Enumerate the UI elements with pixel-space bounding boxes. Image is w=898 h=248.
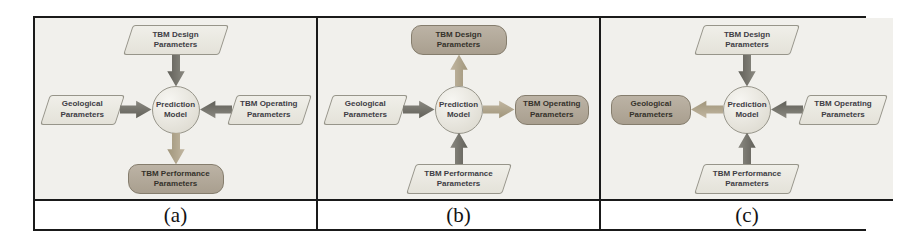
node-tbm-performance-parameters: TBM Performance Parameters [699, 164, 795, 194]
arrow-left-icon [403, 100, 435, 119]
node-geological-parameters: Geological Parameters [45, 95, 120, 125]
arrow-left-icon [120, 100, 152, 119]
node-label: TBM Performance Parameters [704, 169, 790, 190]
prediction-model-circle: Prediction Model [723, 86, 771, 134]
middle-row: Geological Parameters Prediction Model T… [328, 86, 589, 134]
arrow-bottom-icon [449, 133, 468, 165]
arrow-bottom-icon [738, 133, 757, 165]
caption-band-a: (a) [35, 199, 316, 229]
prediction-model-circle: Prediction Model [435, 86, 483, 134]
prediction-model-circle: Prediction Model [152, 86, 200, 134]
arrow-slot [443, 138, 475, 160]
node-label: TBM Operating Parameters [808, 99, 878, 120]
arrow-top-icon [449, 54, 468, 86]
diagram-c: TBM Design Parameters Geological Paramet… [601, 18, 893, 199]
arrow-slot [403, 100, 435, 119]
node-label: Geological Parameters [333, 99, 398, 120]
node-tbm-design-parameters: TBM Design Parameters [699, 25, 795, 55]
node-tbm-performance-parameters: TBM Performance Parameters [411, 164, 507, 194]
node-label: TBM Operating Parameters [520, 99, 585, 120]
node-geological-parameters: Geological Parameters [328, 95, 403, 125]
arrow-left-icon [691, 100, 723, 119]
diagram-b: TBM Design Parameters Geological Paramet… [318, 18, 599, 199]
node-tbm-operating-parameters: TBM Operating Parameters [515, 95, 590, 125]
node-tbm-performance-parameters: TBM Performance Parameters [128, 164, 224, 194]
arrow-top-icon [738, 54, 757, 86]
node-label: TBM Performance Parameters [416, 169, 502, 190]
arrow-slot [200, 100, 232, 119]
arrow-slot [160, 59, 192, 81]
arrow-right-icon [483, 100, 515, 119]
arrow-slot [731, 138, 763, 160]
node-tbm-design-parameters: TBM Design Parameters [411, 25, 507, 55]
arrow-bottom-icon [166, 133, 185, 165]
panel-a: TBM Design Parameters Geological Paramet… [35, 18, 316, 229]
node-tbm-operating-parameters: TBM Operating Parameters [232, 95, 307, 125]
caption-band-c: (c) [601, 199, 893, 229]
middle-row: Geological Parameters Prediction Model T… [45, 86, 306, 134]
arrow-top-icon [166, 54, 185, 86]
panel-b: TBM Design Parameters Geological Paramet… [316, 18, 599, 229]
arrow-slot [691, 100, 723, 119]
node-label: Geological Parameters [50, 99, 115, 120]
node-label: TBM Design Parameters [133, 30, 219, 51]
figure-table: TBM Design Parameters Geological Paramet… [33, 16, 866, 231]
diagram-a: TBM Design Parameters Geological Paramet… [35, 18, 316, 199]
arrow-slot [120, 100, 152, 119]
arrow-right-icon [771, 100, 803, 119]
caption-c: (c) [735, 203, 758, 228]
node-label: TBM Operating Parameters [237, 99, 302, 120]
middle-row: Geological Parameters Prediction Model T… [611, 86, 883, 134]
node-label: TBM Performance Parameters [133, 169, 219, 190]
node-geological-parameters: Geological Parameters [611, 95, 691, 125]
arrow-slot [160, 138, 192, 160]
arrow-slot [443, 59, 475, 81]
node-label: Geological Parameters [616, 99, 686, 120]
caption-band-b: (b) [318, 199, 599, 229]
arrow-slot [731, 59, 763, 81]
arrow-right-icon [200, 100, 232, 119]
node-tbm-operating-parameters: TBM Operating Parameters [803, 95, 883, 125]
arrow-slot [483, 100, 515, 119]
panel-c: TBM Design Parameters Geological Paramet… [599, 18, 893, 229]
arrow-slot [771, 100, 803, 119]
caption-a: (a) [164, 203, 187, 228]
node-label: TBM Design Parameters [704, 30, 790, 51]
caption-b: (b) [446, 203, 471, 228]
node-label: TBM Design Parameters [416, 30, 502, 51]
node-tbm-design-parameters: TBM Design Parameters [128, 25, 224, 55]
